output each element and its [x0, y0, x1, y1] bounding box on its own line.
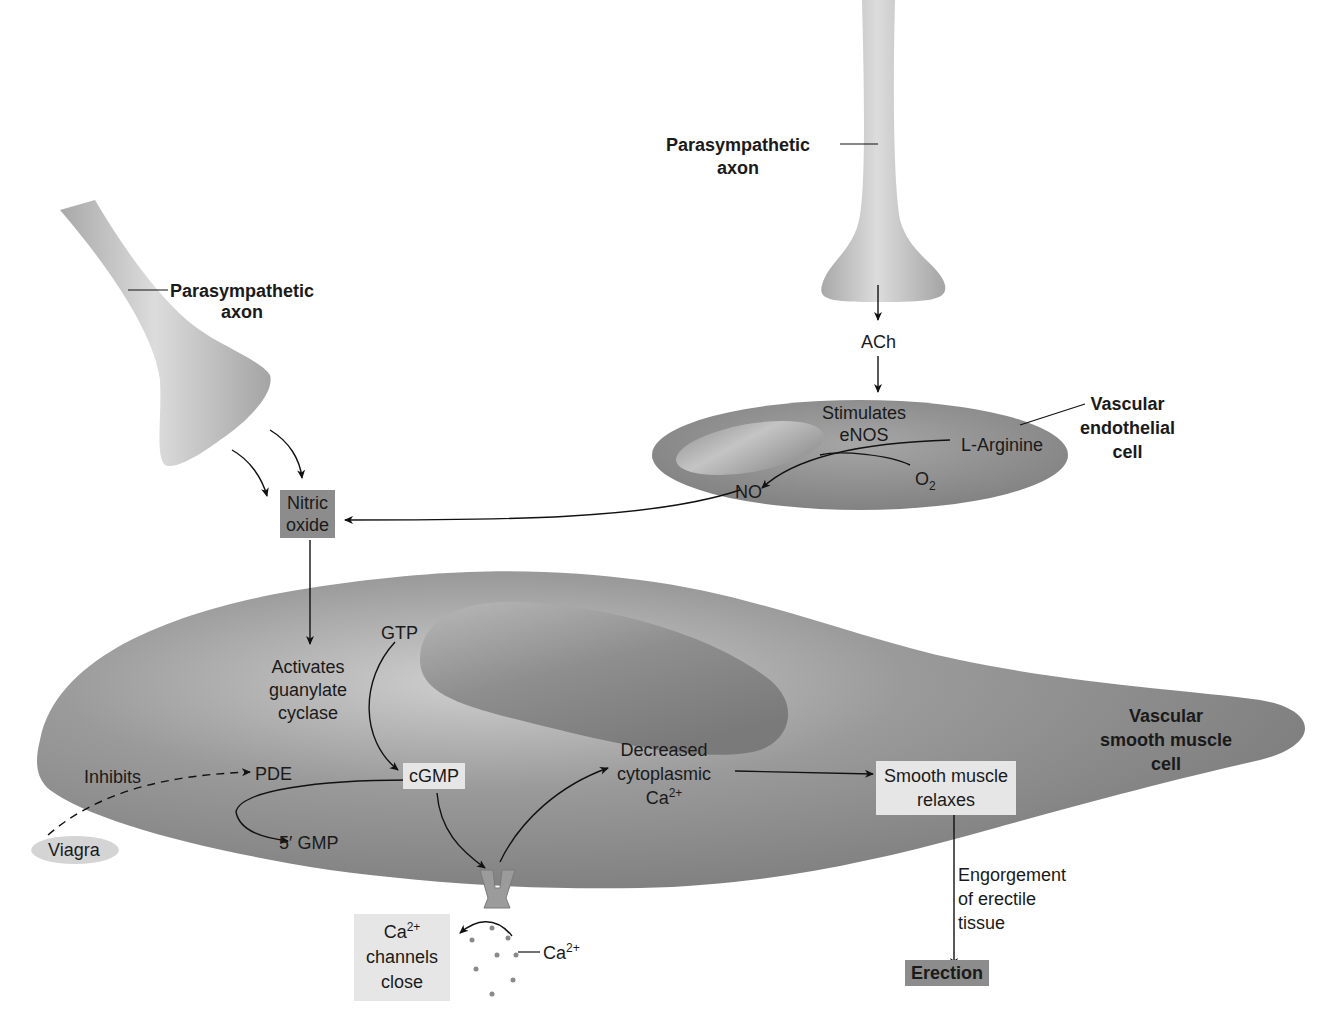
gtp-label: GTP: [381, 622, 418, 644]
endothelial-cell-label: Vascularendothelialcell: [1080, 392, 1175, 464]
5-gmp-label: 5′ GMP: [279, 832, 338, 854]
calcium-ion-label: Ca2+: [543, 942, 580, 964]
inhibits-label: Inhibits: [84, 766, 141, 788]
erection-box: Erection: [905, 960, 989, 986]
ach-label: ACh: [861, 331, 896, 353]
l-arginine-label: L-Arginine: [961, 434, 1043, 456]
cgmp-box: cGMP: [403, 763, 465, 789]
guanylate-cyclase-label: Activatesguanylatecyclase: [269, 656, 347, 725]
axon-right: [821, 0, 945, 302]
calcium-channels-close-box: Ca2+ channelsclose: [354, 914, 450, 1001]
nitric-oxide-box: Nitricoxide: [280, 490, 335, 538]
pde-label: PDE: [255, 763, 292, 785]
enos-label: StimulateseNOS: [822, 402, 906, 446]
smooth-muscle-cell-label: Vascularsmooth musclecell: [1100, 704, 1232, 776]
axon-left: [60, 200, 271, 466]
decreased-calcium-label: Decreasedcytoplasmic Ca2+: [617, 738, 711, 810]
axon-label-left: Parasympatheticaxon: [170, 281, 314, 323]
diagram-canvas: [0, 0, 1326, 1025]
smooth-muscle-relaxes-box: Smooth musclerelaxes: [876, 761, 1016, 815]
engorgement-label: Engorgementof erectiletissue: [958, 863, 1066, 935]
o2-label: O2: [915, 468, 936, 490]
no-label: NO: [735, 481, 762, 503]
calcium-ions: [470, 926, 519, 997]
axon-label-right: Parasympatheticaxon: [666, 134, 810, 180]
viagra-label: Viagra: [48, 839, 100, 861]
